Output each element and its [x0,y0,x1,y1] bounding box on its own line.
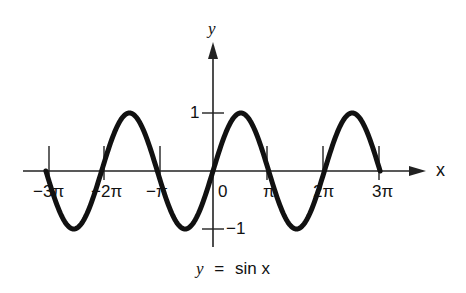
x-tick-label-pi: π [263,183,275,200]
y-axis-label: y [208,20,216,37]
caption-rhs: sin x [235,259,270,278]
sine-plot [0,0,466,293]
x-tick-label-zero: 0 [218,183,227,200]
x-tick-label-neg2pi: −2π [91,183,122,200]
y-tick-label-minus-1: −1 [226,220,245,237]
y-tick-label-1: 1 [190,104,199,121]
x-tick-label-2pi: 2π [313,183,334,200]
x-axis-arrow-icon [409,166,426,176]
x-axis-label: x [436,161,445,179]
x-tick-label-neg3pi: −3π [33,183,64,200]
caption-equals: = [214,259,224,278]
y-axis-arrow-icon [208,42,218,59]
x-tick-label-3pi: 3π [372,183,393,200]
x-tick-label-negpi: −π [146,183,168,200]
chart-caption: y = sin x [0,259,466,279]
caption-y: y [196,259,204,278]
